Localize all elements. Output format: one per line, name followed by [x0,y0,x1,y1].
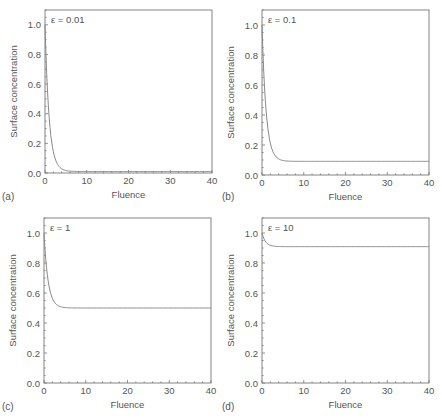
y-tick-label: 0.4 [245,318,258,329]
y-tick-label: 0.0 [245,378,258,389]
y-tick-label: 1.0 [27,228,40,239]
x-tick-label: 10 [298,385,309,396]
concentration-curve [44,233,211,308]
x-tick-label: 20 [340,385,351,396]
x-tick-label: 40 [424,385,435,396]
y-tick-label: 0.0 [245,170,258,181]
y-tick-label: 0.2 [28,138,41,149]
plot-frame [44,218,211,383]
y-tick-label: 0.2 [245,348,258,359]
x-tick-label: 40 [207,175,218,186]
y-tick-label: 0.0 [27,378,40,389]
y-tick-label: 0.6 [245,288,258,299]
panel-label: (b) [222,191,234,202]
epsilon-annotation: ε = 10 [268,222,294,233]
x-axis-label: Fluence [112,189,146,200]
y-tick-label: 0.8 [28,49,41,60]
x-tick-label: 0 [259,385,264,396]
y-tick-label: 0.6 [27,288,40,299]
y-axis-label: Surface concentration [7,254,18,346]
concentration-curve [262,25,429,161]
x-axis-label: Fluence [329,191,363,202]
x-tick-label: 40 [206,385,217,396]
y-tick-label: 1.0 [28,19,41,30]
panel-c: 0102030400.00.20.40.60.81.0FluenceSurfac… [2,218,216,412]
y-tick-label: 0.8 [245,258,258,269]
panel-d: 0102030400.00.20.40.60.81.0FluenceSurfac… [222,218,434,412]
y-tick-label: 0.2 [245,140,258,151]
plot-frame [262,218,429,383]
plot-frame [262,10,429,175]
x-tick-label: 20 [340,177,351,188]
x-tick-label: 40 [424,177,435,188]
panel-b: 0102030400.00.20.40.60.81.0FluenceSurfac… [222,10,434,202]
panel-label: (d) [222,401,234,412]
x-tick-label: 10 [81,175,92,186]
y-tick-label: 0.4 [245,110,258,121]
epsilon-annotation: ε = 1 [50,222,70,233]
x-tick-label: 10 [298,177,309,188]
x-tick-label: 0 [41,385,46,396]
x-tick-label: 0 [42,175,47,186]
epsilon-annotation: ε = 0.01 [51,14,85,25]
panel-label: (a) [2,191,14,202]
y-tick-label: 0.8 [245,50,258,61]
y-axis-label: Surface concentration [8,45,19,137]
y-tick-label: 0.0 [28,168,41,179]
y-tick-label: 0.4 [27,318,40,329]
concentration-curve [45,25,212,172]
x-tick-label: 10 [80,385,91,396]
figure: 0102030400.00.20.40.60.81.0FluenceSurfac… [0,0,442,419]
x-tick-label: 20 [123,175,134,186]
y-tick-label: 1.0 [245,228,258,239]
x-tick-label: 20 [122,385,133,396]
x-tick-label: 0 [259,177,264,188]
concentration-curve [262,233,429,247]
y-tick-label: 0.8 [27,258,40,269]
y-tick-label: 1.0 [245,20,258,31]
x-axis-label: Fluence [111,399,145,410]
x-axis-label: Fluence [329,399,363,410]
y-tick-label: 0.2 [27,348,40,359]
y-tick-label: 0.6 [28,79,41,90]
panel-a: 0102030400.00.20.40.60.81.0FluenceSurfac… [2,10,217,202]
x-tick-label: 30 [382,177,393,188]
epsilon-annotation: ε = 0.1 [268,14,296,25]
x-tick-label: 30 [165,175,176,186]
x-tick-label: 30 [382,385,393,396]
y-axis-label: Surface concentration [225,46,236,138]
x-tick-label: 30 [164,385,175,396]
panel-label: (c) [2,401,14,412]
y-axis-label: Surface concentration [225,254,236,346]
y-tick-label: 0.6 [245,80,258,91]
y-tick-label: 0.4 [28,108,41,119]
plot-frame [45,10,212,173]
